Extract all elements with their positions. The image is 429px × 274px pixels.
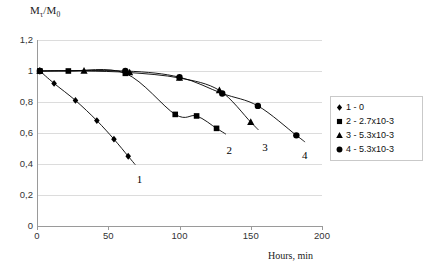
curve-line: [40, 69, 226, 134]
x-axis-tick: [37, 226, 38, 230]
curve-label: 4: [302, 149, 308, 161]
y-tick-label: 1,2: [20, 34, 33, 45]
x-axis-tick: [108, 226, 109, 230]
y-tick-label: 0,8: [20, 96, 33, 107]
curve-label: 2: [227, 144, 233, 156]
legend-item-label: 1 - 0: [346, 102, 364, 112]
legend-marker-square-icon: [334, 116, 345, 127]
x-tick-label: 100: [172, 230, 188, 241]
data-point-marker: [51, 80, 57, 87]
legend-item-label: 4 - 5.3x10-3: [346, 144, 394, 154]
legend-marker-circle-icon: [334, 144, 345, 155]
data-point-marker: [176, 74, 182, 80]
y-axis-title-sub2: 0: [56, 10, 60, 19]
x-axis-tick: [251, 226, 252, 230]
y-axis-tick-labels: 00,20,40,60,811,2: [0, 40, 33, 226]
x-tick-label: 200: [314, 230, 330, 241]
y-tick-label: 0,2: [20, 189, 33, 200]
data-curves: [37, 40, 322, 226]
x-tick-label: 0: [34, 230, 39, 241]
y-axis-title-text: M: [30, 4, 40, 16]
curve-line: [40, 71, 259, 130]
data-point-marker: [172, 112, 178, 118]
plot-area: 1234: [37, 40, 322, 226]
y-tick-label: 1: [28, 65, 33, 76]
legend-item: 4 - 5.3x10-3: [334, 142, 420, 156]
curve-label: 3: [262, 141, 268, 153]
x-tick-label: 150: [243, 230, 259, 241]
curve-line: [40, 71, 305, 142]
data-point-marker: [194, 113, 200, 119]
data-point-marker: [214, 126, 220, 132]
data-point-marker: [37, 68, 43, 74]
y-axis-title: Mτ/M0: [30, 4, 60, 19]
data-point-marker: [73, 97, 79, 104]
legend-marker-triangle-icon: [334, 130, 345, 141]
data-point-marker: [122, 68, 128, 74]
chart-legend: 1 - 02 - 2.7x10-33 - 5.3x10-34 - 5.3x10-…: [330, 96, 423, 161]
x-axis-tick: [322, 226, 323, 230]
data-point-marker: [255, 103, 261, 109]
legend-item: 1 - 0: [334, 100, 420, 114]
legend-item-label: 3 - 5.3x10-3: [346, 130, 394, 140]
y-tick-label: 0,6: [20, 127, 33, 138]
chart-figure: Mτ/M0 00,20,40,60,811,2 050100150200 123…: [0, 0, 429, 274]
x-axis-tick: [180, 226, 181, 230]
legend-item-label: 2 - 2.7x10-3: [346, 116, 394, 126]
y-tick-label: 0: [28, 220, 33, 231]
data-point-marker: [219, 90, 225, 96]
legend-marker-diamond-icon: [334, 102, 345, 113]
y-axis-title-mid: /M: [43, 4, 56, 16]
legend-item: 3 - 5.3x10-3: [334, 128, 420, 142]
data-point-marker: [293, 132, 299, 138]
y-tick-label: 0,4: [20, 158, 33, 169]
x-axis-tick-labels: 050100150200: [37, 230, 322, 244]
x-axis-title: Hours, min: [268, 250, 313, 261]
x-tick-label: 50: [103, 230, 114, 241]
legend-item: 2 - 2.7x10-3: [334, 114, 420, 128]
curve-label: 1: [137, 173, 143, 185]
